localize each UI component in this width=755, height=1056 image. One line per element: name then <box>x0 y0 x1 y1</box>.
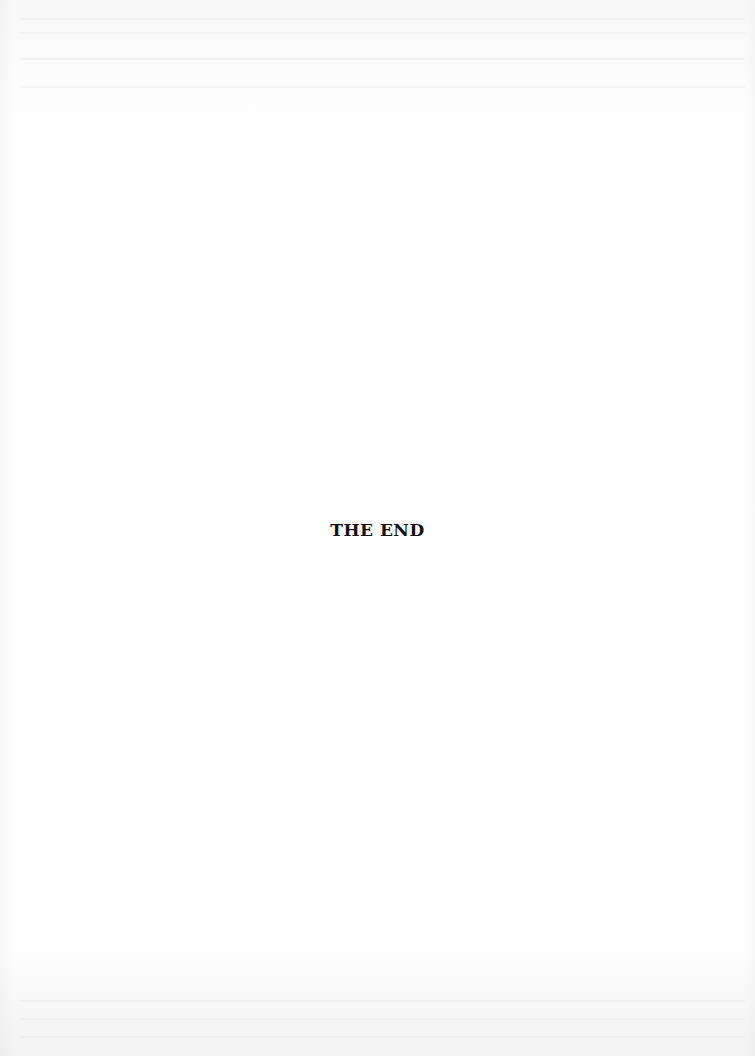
closing-text: THE END <box>0 520 755 540</box>
book-page: THE END <box>0 0 755 1056</box>
bleed-through-line <box>20 58 745 60</box>
bleed-through-line <box>20 32 745 34</box>
bleed-through-line <box>20 86 745 88</box>
bleed-through-line <box>20 1036 745 1038</box>
bleed-through-line <box>20 18 745 20</box>
bleed-through-line <box>20 1000 745 1002</box>
bleed-through-line <box>20 1018 745 1020</box>
